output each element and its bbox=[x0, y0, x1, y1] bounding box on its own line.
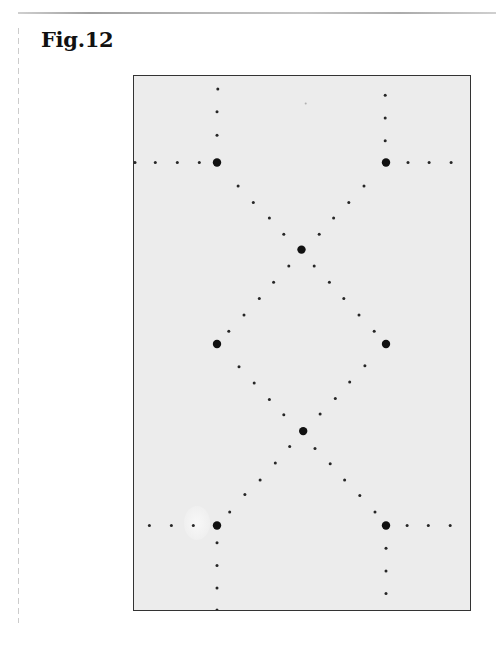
small-spot bbox=[347, 201, 350, 204]
small-spot bbox=[237, 185, 240, 188]
small-spot bbox=[198, 161, 201, 164]
large-spot bbox=[382, 340, 390, 348]
small-spot bbox=[216, 541, 219, 544]
small-spot bbox=[134, 161, 137, 164]
small-spot bbox=[314, 447, 317, 450]
small-spot bbox=[216, 608, 219, 610]
small-spot bbox=[427, 524, 430, 527]
small-spot bbox=[363, 364, 366, 367]
small-spot bbox=[216, 110, 219, 113]
small-spot bbox=[385, 547, 388, 550]
small-spot bbox=[176, 161, 179, 164]
scan-edge-left bbox=[18, 28, 19, 623]
small-spot bbox=[384, 117, 387, 120]
small-spot bbox=[272, 281, 275, 284]
small-spot bbox=[449, 524, 452, 527]
small-spot bbox=[253, 382, 256, 385]
small-spot bbox=[358, 314, 361, 317]
small-spot bbox=[238, 365, 241, 368]
small-spot bbox=[252, 201, 255, 204]
small-spot bbox=[384, 139, 387, 142]
faint-spot bbox=[305, 103, 307, 105]
small-spot bbox=[216, 587, 219, 590]
small-spot bbox=[216, 134, 219, 137]
small-spot bbox=[192, 524, 195, 527]
small-spot bbox=[374, 510, 377, 513]
small-spot bbox=[348, 381, 351, 384]
spot-pattern bbox=[134, 76, 470, 610]
small-spot bbox=[318, 233, 321, 236]
small-spot bbox=[407, 161, 410, 164]
small-spot bbox=[170, 524, 173, 527]
small-spot bbox=[343, 479, 346, 482]
diffraction-plate bbox=[133, 75, 471, 611]
small-spot bbox=[384, 94, 387, 97]
small-spot bbox=[385, 569, 388, 572]
small-spot bbox=[332, 216, 335, 219]
small-spot bbox=[329, 462, 332, 465]
large-spot bbox=[382, 521, 390, 529]
small-spot bbox=[334, 397, 337, 400]
small-spot bbox=[259, 479, 262, 482]
small-spot bbox=[450, 161, 453, 164]
small-spot bbox=[243, 314, 246, 317]
small-spot bbox=[154, 161, 157, 164]
small-spot bbox=[216, 564, 219, 567]
small-spot bbox=[228, 510, 231, 513]
small-spot bbox=[274, 461, 277, 464]
small-spot bbox=[342, 297, 345, 300]
figure-label: Fig.12 bbox=[41, 27, 113, 52]
small-spot bbox=[282, 413, 285, 416]
small-spot bbox=[148, 524, 151, 527]
small-spot bbox=[313, 265, 316, 268]
small-spot bbox=[268, 216, 271, 219]
small-spot bbox=[428, 161, 431, 164]
small-spot bbox=[288, 445, 291, 448]
small-spot bbox=[282, 233, 285, 236]
large-spot bbox=[213, 158, 221, 166]
large-spot bbox=[213, 521, 221, 529]
small-spot bbox=[227, 330, 230, 333]
large-spot bbox=[382, 158, 390, 166]
small-spot bbox=[406, 524, 409, 527]
small-spot bbox=[258, 297, 261, 300]
small-spot bbox=[287, 265, 290, 268]
large-spot bbox=[299, 427, 307, 435]
small-spot bbox=[363, 185, 366, 188]
small-spot bbox=[268, 398, 271, 401]
small-spot bbox=[328, 281, 331, 284]
large-spot bbox=[297, 245, 305, 253]
small-spot bbox=[373, 330, 376, 333]
small-spot bbox=[216, 88, 219, 91]
large-spot bbox=[213, 340, 221, 348]
small-spot bbox=[319, 412, 322, 415]
small-spot bbox=[358, 494, 361, 497]
small-spot bbox=[385, 592, 388, 595]
scan-edge-top bbox=[18, 12, 496, 14]
small-spot bbox=[243, 493, 246, 496]
